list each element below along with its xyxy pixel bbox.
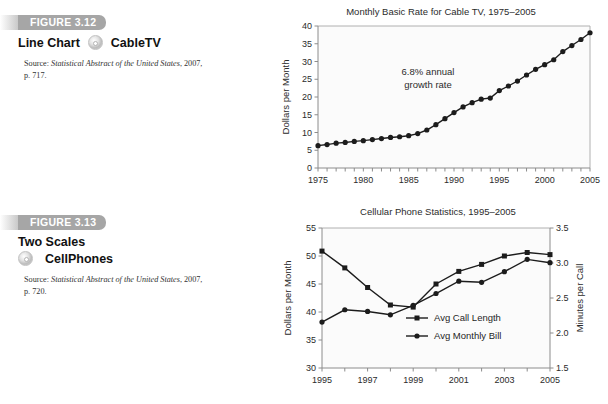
y-tick-label-left: 50 <box>306 251 316 261</box>
chart-annotation-line2: growth rate <box>404 79 452 90</box>
x-tick-label: 1975 <box>308 175 328 185</box>
data-point <box>424 127 429 132</box>
y-tick-label-right: 2.0 <box>556 328 569 338</box>
y-tick-label: 10 <box>302 128 312 138</box>
data-point <box>352 139 357 144</box>
figure-tab-label: FIGURE 3.13 <box>18 215 106 230</box>
data-point <box>479 262 484 267</box>
data-point <box>587 30 592 35</box>
chart-plot-area: 3035404550551.52.02.53.03.51995199719992… <box>278 220 604 402</box>
data-point <box>524 72 529 77</box>
y-tick-label-left: 35 <box>306 335 316 345</box>
figure-title-row: Two Scales CellPhones <box>18 235 250 266</box>
y-tick-label: 15 <box>302 110 312 120</box>
data-point <box>451 110 456 115</box>
y-axis-label-right: Minutes per Call <box>574 264 585 333</box>
data-point <box>479 97 484 102</box>
data-point <box>319 319 324 324</box>
source-prefix: Source: <box>24 59 51 68</box>
source-title-cont: States <box>160 275 180 284</box>
x-tick-label: 2003 <box>494 375 514 385</box>
y-tick-label-right: 1.5 <box>556 363 569 373</box>
data-point <box>442 116 447 121</box>
data-point <box>388 312 393 317</box>
dataset-name: CellPhones <box>45 252 113 266</box>
x-tick-label: 1995 <box>312 375 332 385</box>
data-point <box>342 307 347 312</box>
chart-svg-cable: 0510152025303540197519801985199019952000… <box>278 20 604 195</box>
chart-plot-area: 0510152025303540197519801985199019952000… <box>278 20 604 195</box>
data-point <box>342 265 347 270</box>
data-point <box>542 62 547 67</box>
figure-block-312: FIGURE 3.12 Line Chart CableTV Source: S… <box>0 12 250 82</box>
data-point <box>334 141 339 146</box>
data-point <box>506 83 511 88</box>
x-tick-label: 1980 <box>353 175 373 185</box>
x-tick-label: 2005 <box>540 375 560 385</box>
data-point <box>525 257 530 262</box>
chart-title: Monthly Basic Rate for Cable TV, 1975–20… <box>278 6 604 17</box>
y-tick-label-right: 2.5 <box>556 293 569 303</box>
source-title: Statistical Abstract of the United <box>51 275 158 284</box>
data-point <box>560 49 565 54</box>
x-tick-label: 2001 <box>449 375 469 385</box>
figure-title: Line Chart <box>18 36 80 50</box>
dataset-name: CableTV <box>111 36 161 50</box>
data-point <box>547 260 552 265</box>
data-point <box>502 254 507 259</box>
data-point <box>533 67 538 72</box>
data-point <box>406 133 411 138</box>
chart-annotation-line1: 6.8% annual <box>402 66 455 77</box>
disc-icon <box>88 35 103 50</box>
data-point <box>456 279 461 284</box>
y-tick-label: 30 <box>302 57 312 67</box>
data-point <box>460 104 465 109</box>
data-point <box>324 142 329 147</box>
y-tick-label: 0 <box>307 163 312 173</box>
data-point <box>525 250 530 255</box>
data-point <box>515 78 520 83</box>
y-tick-label-left: 40 <box>306 307 316 317</box>
y-tick-label: 25 <box>302 74 312 84</box>
x-tick-label: 2000 <box>535 175 555 185</box>
y-axis-label-left: Dollars per Month <box>282 261 293 336</box>
chart-title: Cellular Phone Statistics, 1995–2005 <box>272 206 604 217</box>
figure-block-313: FIGURE 3.13 Two Scales CellPhones Source… <box>0 212 250 298</box>
y-tick-label: 40 <box>302 21 312 31</box>
plot-background <box>322 228 550 368</box>
data-point <box>388 303 393 308</box>
x-tick-label: 1999 <box>403 375 423 385</box>
figure-page: FIGURE 3.12 Line Chart CableTV Source: S… <box>0 0 608 404</box>
data-point <box>470 100 475 105</box>
y-tick-label: 5 <box>307 145 312 155</box>
chart-cable-tv: Monthly Basic Rate for Cable TV, 1975–20… <box>278 6 604 196</box>
y-tick-label-right: 3.0 <box>556 258 569 268</box>
data-point <box>488 95 493 100</box>
data-point <box>365 285 370 290</box>
data-point <box>320 249 325 254</box>
data-point <box>497 88 502 93</box>
data-point <box>578 37 583 42</box>
data-point <box>433 291 438 296</box>
figure-title: Two Scales <box>18 235 250 249</box>
figure-source: Source: Statistical Abstract of the Unit… <box>24 58 209 82</box>
source-prefix: Source: <box>24 275 51 284</box>
y-tick-label-left: 55 <box>306 223 316 233</box>
data-point <box>415 131 420 136</box>
data-point <box>397 134 402 139</box>
data-point <box>370 137 375 142</box>
data-point <box>434 282 439 287</box>
figure-title-row: Line Chart CableTV <box>18 35 250 50</box>
data-point <box>365 309 370 314</box>
data-point <box>361 138 366 143</box>
x-tick-label: 1990 <box>444 175 464 185</box>
data-point <box>569 43 574 48</box>
figure-dataset-row: CellPhones <box>18 251 250 266</box>
data-point <box>343 140 348 145</box>
y-tick-label-left: 45 <box>306 279 316 289</box>
data-point <box>388 135 393 140</box>
y-tick-label-left: 30 <box>306 363 316 373</box>
y-tick-label: 35 <box>302 39 312 49</box>
legend-label-2: Avg Monthly Bill <box>434 330 501 341</box>
legend-marker-square <box>415 316 420 321</box>
